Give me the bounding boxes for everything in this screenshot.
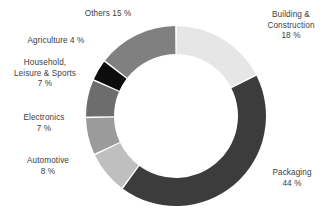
slice-label-household-leisure-sports: Household, Leisure & Sports 7 % [0,58,90,90]
slice-label-others: Others 15 % [60,9,156,20]
slice-label-packaging: Packaging 44 % [256,168,328,189]
slice-label-building-construction: Building & Construction 18 % [254,10,328,42]
slice-label-agriculture: Agriculture 4 % [8,36,104,47]
donut-slice [177,26,256,87]
donut-slices [86,26,266,206]
slice-label-automotive: Automotive 8 % [6,156,90,177]
donut-chart: Building & Construction 18 % Packaging 4… [0,0,331,218]
donut-slice [105,26,175,78]
slice-label-electronics: Electronics 7 % [2,113,86,134]
donut-slice [123,76,266,206]
